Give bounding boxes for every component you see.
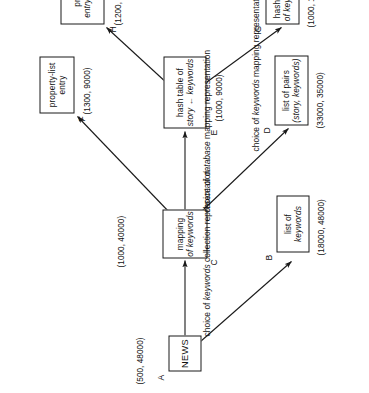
edge-label-database-mapping-representation: choice of database mapping representatio…: [201, 49, 211, 212]
node-h-line-1: entry of keywords: [82, 0, 92, 17]
node-news-line-0: NEWS: [179, 338, 190, 367]
edge-e-h: [106, 27, 168, 84]
node-e-line-0: hash table of: [175, 68, 185, 117]
cost-c: (1000, 40000): [115, 215, 125, 267]
cost-b: (18000, 48000): [315, 199, 325, 255]
cost-e: (1000, 9000): [213, 74, 223, 121]
node-f-line-0: property-list: [47, 62, 57, 107]
edge-label-1-emphasis: database: [201, 141, 211, 176]
edge-c-f: [77, 116, 170, 213]
node-property-list-entry-of-keywords[interactable]: property-list entry of keywords: [60, 0, 104, 24]
edge-label-keywords-mapping-representation: choice of keywords mapping representatio…: [250, 0, 260, 151]
edge-label-0-emphasis: keywords: [201, 264, 211, 300]
edge-c-d: [200, 128, 288, 212]
cost-f: (1300, 9000): [81, 67, 91, 114]
node-news[interactable]: NEWS: [168, 335, 201, 371]
node-hash-table-of-keywords[interactable]: hash table of keywords: [265, 0, 299, 24]
node-g-line-1: of keywords: [282, 0, 292, 21]
edge-label-2-emphasis: keywords: [250, 79, 260, 115]
diagram-canvas: NEWS A (500, 48000) list of keywords B (…: [0, 0, 369, 393]
node-b-line-1: keywords: [293, 206, 303, 242]
node-id-h: H: [107, 26, 117, 32]
edge-label-1-suffix: mapping representation: [201, 49, 211, 140]
node-c-line-0: mapping: [175, 217, 185, 250]
node-id-d: D: [261, 127, 271, 133]
node-property-list-entry[interactable]: property-list entry: [39, 56, 74, 113]
node-list-of-keywords[interactable]: list of keywords: [276, 195, 309, 252]
node-list-of-pairs[interactable]: list of pairs (story, keywords): [274, 55, 308, 125]
edge-label-0-prefix: choice of: [201, 300, 211, 336]
node-f-line-1: entry: [57, 75, 67, 94]
cost-g: (1000, 1000): [305, 0, 315, 27]
cost-d: (33000, 35000): [314, 72, 324, 128]
node-c-line-1: of keywords: [185, 211, 195, 256]
diagram-figure: NEWS A (500, 48000) list of keywords B (…: [0, 0, 369, 393]
cost-a: (500, 48000): [134, 337, 144, 384]
cost-h: (1200, 1200): [112, 0, 122, 25]
edge-label-2-prefix: choice of: [250, 115, 260, 151]
node-d-line-1: (story, keywords): [291, 58, 301, 122]
edge-label-1-prefix: choice of: [201, 176, 211, 212]
node-e-line-1: story ← keywords: [185, 58, 195, 126]
node-b-line-0: list of: [283, 213, 293, 233]
node-id-b: B: [263, 254, 273, 260]
node-id-f: F: [76, 116, 86, 121]
edge-a-b: [200, 261, 291, 341]
node-mapping-of-keywords[interactable]: mapping of keywords: [162, 209, 207, 258]
node-id-a: A: [155, 374, 165, 380]
edge-label-2-suffix: mapping representation: [250, 0, 260, 79]
node-hash-table-story-keywords[interactable]: hash table of story ← keywords: [163, 56, 206, 128]
